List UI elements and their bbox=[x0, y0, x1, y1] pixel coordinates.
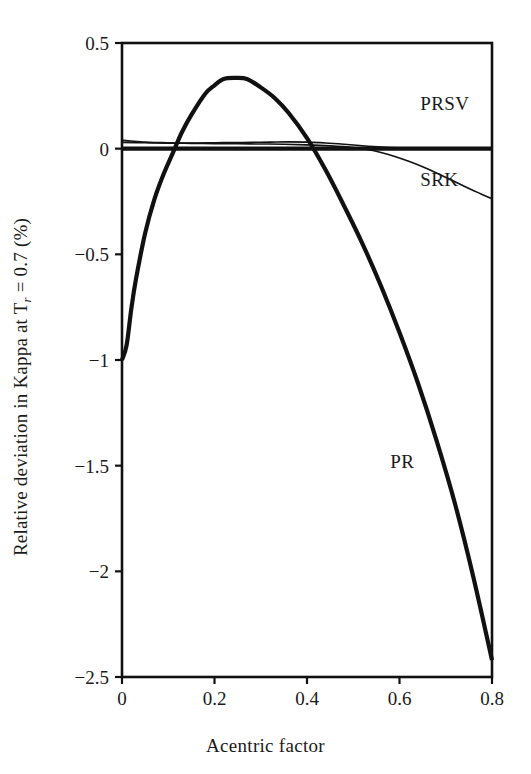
series-group bbox=[122, 78, 492, 660]
series-label-pr: PR bbox=[390, 451, 414, 473]
y-axis-title-main: Relative deviation in Kappa at T bbox=[10, 302, 31, 556]
series-line-pr bbox=[122, 78, 492, 660]
y-tick-label: −1.5 bbox=[75, 456, 109, 475]
y-tick-label: −2 bbox=[89, 562, 109, 581]
y-tick-label: 0 bbox=[100, 139, 110, 158]
x-axis-title: Acentric factor bbox=[0, 735, 531, 757]
y-tick-label: 0.5 bbox=[85, 34, 109, 53]
x-tick-label: 0.6 bbox=[388, 689, 412, 708]
x-tick-label: 0.2 bbox=[203, 689, 227, 708]
series-label-prsv: PRSV bbox=[420, 93, 469, 115]
y-tick-label: −1 bbox=[89, 351, 109, 370]
chart-figure: 0.50−0.5−1−1.5−2−2.500.20.40.60.8 PRSV S… bbox=[0, 0, 531, 774]
x-tick-label: 0.4 bbox=[295, 689, 319, 708]
plot-area bbox=[0, 0, 531, 774]
y-axis-title-subscript: r bbox=[19, 297, 34, 302]
x-tick-label: 0.8 bbox=[480, 689, 504, 708]
axis-ticks bbox=[115, 43, 492, 684]
series-label-srk: SRK bbox=[420, 169, 458, 191]
y-axis-title-tail: = 0.7 (%) bbox=[10, 218, 31, 297]
x-tick-label: 0 bbox=[117, 689, 127, 708]
y-tick-label: −0.5 bbox=[75, 245, 109, 264]
y-tick-label: −2.5 bbox=[75, 668, 109, 687]
y-axis-title: Relative deviation in Kappa at Tr = 0.7 … bbox=[0, 0, 42, 774]
